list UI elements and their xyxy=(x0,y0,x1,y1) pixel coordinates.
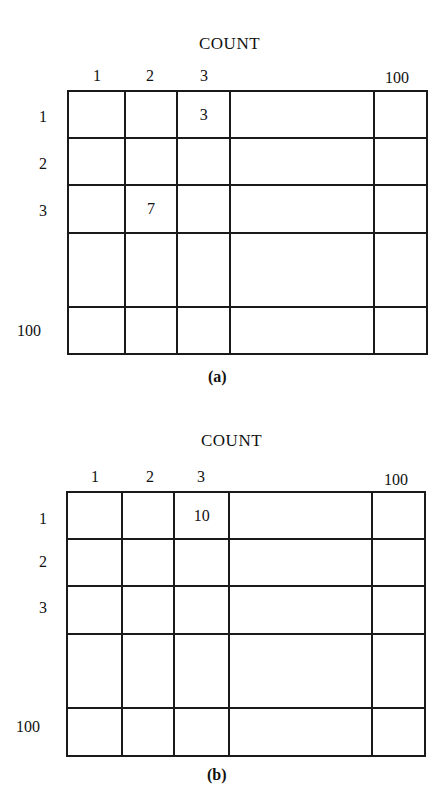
matrix-cell xyxy=(174,634,229,708)
figure-b: COUNT 1 2 3 100 1 2 3 100 10 xyxy=(0,0,446,794)
column-label: 2 xyxy=(146,468,154,486)
column-label: 100 xyxy=(384,471,408,489)
matrix-cell xyxy=(122,586,175,634)
matrix-cell xyxy=(372,539,425,586)
matrix-cell xyxy=(229,492,372,539)
matrix-cell xyxy=(174,539,229,586)
row-label: 100 xyxy=(16,718,40,736)
row-label: 1 xyxy=(39,510,47,528)
matrix-cell xyxy=(67,634,122,708)
matrix-cell xyxy=(174,708,229,756)
matrix-cell xyxy=(67,492,122,539)
matrix-cell xyxy=(67,539,122,586)
row-label: 2 xyxy=(39,553,47,571)
matrix-cell xyxy=(174,586,229,634)
matrix-cell xyxy=(67,586,122,634)
count-matrix: 10 xyxy=(66,491,426,757)
matrix-cell xyxy=(67,708,122,756)
column-label: 1 xyxy=(91,468,99,486)
figure-caption: (b) xyxy=(207,766,227,784)
matrix-cell xyxy=(229,634,372,708)
column-label: 3 xyxy=(197,468,205,486)
matrix-cell: 10 xyxy=(174,492,229,539)
matrix-cell xyxy=(122,708,175,756)
matrix-cell xyxy=(372,492,425,539)
matrix-cell xyxy=(122,539,175,586)
matrix-cell xyxy=(229,708,372,756)
matrix-cell xyxy=(372,634,425,708)
matrix-cell xyxy=(229,539,372,586)
matrix-cell xyxy=(229,586,372,634)
matrix-cell xyxy=(372,586,425,634)
matrix-cell xyxy=(122,634,175,708)
matrix-cell xyxy=(372,708,425,756)
row-label: 3 xyxy=(39,599,47,617)
figure-title: COUNT xyxy=(201,431,262,451)
matrix-cell xyxy=(122,492,175,539)
